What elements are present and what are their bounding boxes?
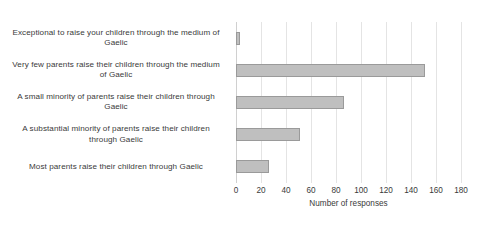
bar-chart: Exceptional to raise your children throu… xyxy=(0,0,477,233)
x-tick-label: 120 xyxy=(379,186,393,195)
x-tick-label: 100 xyxy=(354,186,368,195)
bar[interactable] xyxy=(236,32,240,45)
x-tick-label: 160 xyxy=(429,186,443,195)
bar[interactable] xyxy=(236,64,425,77)
x-tick-label: 0 xyxy=(234,186,239,195)
x-tick-label: 40 xyxy=(281,186,290,195)
category-label: Most parents raise their children throug… xyxy=(8,162,230,173)
x-axis-title: Number of responses xyxy=(236,199,461,208)
x-tick-label: 80 xyxy=(331,186,340,195)
bar-row xyxy=(236,119,461,151)
category-label-row: Most parents raise their children throug… xyxy=(8,151,230,183)
category-label: Very few parents raise their children th… xyxy=(8,60,230,81)
category-label: A substantial minority of parents raise … xyxy=(8,124,230,145)
bar[interactable] xyxy=(236,128,300,141)
bar[interactable] xyxy=(236,96,344,109)
x-tick-label: 180 xyxy=(454,186,468,195)
category-label-row: Very few parents raise their children th… xyxy=(8,54,230,86)
bar-row xyxy=(236,54,461,86)
bar-series xyxy=(236,22,461,183)
bar[interactable] xyxy=(236,160,269,173)
category-label-row: A small minority of parents raise their … xyxy=(8,86,230,118)
bar-row xyxy=(236,86,461,118)
x-tick-label: 60 xyxy=(306,186,315,195)
category-label-row: A substantial minority of parents raise … xyxy=(8,119,230,151)
category-axis-labels: Exceptional to raise your children throu… xyxy=(8,22,230,183)
gridline-180 xyxy=(461,22,462,183)
bar-row xyxy=(236,22,461,54)
x-axis-tick-labels: 020406080100120140160180 xyxy=(236,186,461,198)
category-label-row: Exceptional to raise your children throu… xyxy=(8,22,230,54)
x-tick-label: 20 xyxy=(256,186,265,195)
category-label: Exceptional to raise your children throu… xyxy=(8,28,230,49)
plot-area xyxy=(236,22,461,183)
bar-row xyxy=(236,151,461,183)
category-label: A small minority of parents raise their … xyxy=(8,92,230,113)
x-tick-label: 140 xyxy=(404,186,418,195)
